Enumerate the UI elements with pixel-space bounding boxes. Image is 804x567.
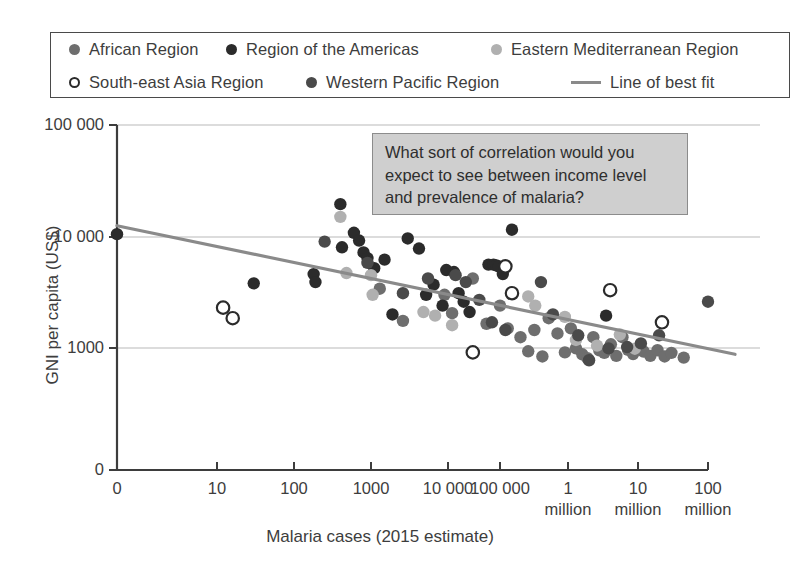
data-point: [506, 287, 518, 299]
x-axis-title: Malaria cases (2015 estimate): [0, 527, 760, 547]
data-point: [665, 347, 677, 359]
data-point: [499, 260, 511, 272]
data-point: [572, 329, 584, 341]
data-point: [602, 342, 614, 354]
data-point: [353, 234, 365, 246]
data-point: [460, 276, 472, 288]
data-point: [583, 354, 595, 366]
data-point: [514, 331, 526, 343]
data-point: [366, 289, 378, 301]
data-point: [506, 224, 518, 236]
data-point: [334, 198, 346, 210]
data-point: [422, 272, 434, 284]
data-point: [604, 284, 616, 296]
y-axis-title: GNI per capita (US$): [43, 190, 63, 420]
data-point: [536, 350, 548, 362]
data-point: [397, 287, 409, 299]
data-point: [336, 241, 348, 253]
data-point: [678, 351, 690, 363]
data-point: [397, 315, 409, 327]
data-point: [621, 341, 633, 353]
y-tick-label: 0: [0, 460, 104, 479]
annotation-text: What sort of correlation would you expec…: [385, 141, 675, 209]
data-point: [436, 299, 448, 311]
data-point: [429, 309, 441, 321]
data-point: [522, 345, 534, 357]
data-point: [217, 301, 229, 313]
data-point: [467, 346, 479, 358]
x-tick-label: 100million: [658, 478, 758, 520]
data-point: [635, 337, 647, 349]
data-point: [446, 319, 458, 331]
x-tick-label-unit: million: [658, 499, 758, 520]
data-point: [702, 296, 714, 308]
data-point: [386, 308, 398, 320]
data-point: [449, 269, 461, 281]
data-point: [600, 309, 612, 321]
data-point: [529, 299, 541, 311]
data-point: [309, 276, 321, 288]
data-point: [334, 211, 346, 223]
data-point: [248, 277, 260, 289]
data-point: [499, 324, 511, 336]
x-tick-label: 0: [67, 478, 167, 499]
data-point: [378, 253, 390, 265]
data-point: [361, 257, 373, 269]
annotation-callout: What sort of correlation would you expec…: [372, 133, 688, 215]
y-tick-label: 100 000: [0, 115, 104, 134]
x-tick-label-value: 0: [67, 478, 167, 499]
data-point: [463, 306, 475, 318]
data-point: [402, 232, 414, 244]
data-point: [318, 235, 330, 247]
data-point: [591, 339, 603, 351]
data-point: [551, 327, 563, 339]
malaria-gni-scatter-chart: African RegionRegion of the AmericasEast…: [0, 0, 804, 567]
data-point: [559, 346, 571, 358]
best-fit-line: [117, 226, 735, 355]
data-point: [111, 228, 123, 240]
data-point: [656, 316, 668, 328]
x-tick-label-value: 100: [658, 478, 758, 499]
data-point: [413, 242, 425, 254]
data-points: [111, 198, 714, 366]
data-point: [528, 324, 540, 336]
data-point: [417, 306, 429, 318]
data-point: [486, 316, 498, 328]
data-point: [227, 312, 239, 324]
best-fit-line-segment: [117, 226, 735, 355]
data-point: [535, 276, 547, 288]
